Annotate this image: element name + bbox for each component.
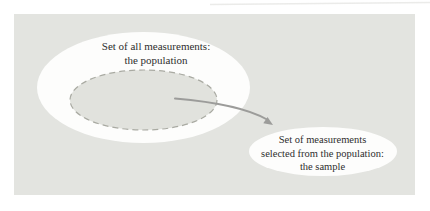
figure-canvas: Set of all measurements: the population … — [0, 0, 430, 211]
population-label-line2: the population — [66, 53, 246, 67]
sample-label-line3: the sample — [242, 160, 403, 174]
scan-artifact-line — [210, 3, 430, 5]
diagram-shapes — [0, 0, 430, 211]
population-label: Set of all measurements: the population — [66, 39, 246, 67]
sample-label: Set of measurements selected from the po… — [242, 133, 403, 174]
population-label-line1: Set of all measurements: — [66, 39, 246, 53]
sample-label-line1: Set of measurements — [242, 133, 403, 147]
sample-label-line2: selected from the population: — [242, 147, 403, 161]
